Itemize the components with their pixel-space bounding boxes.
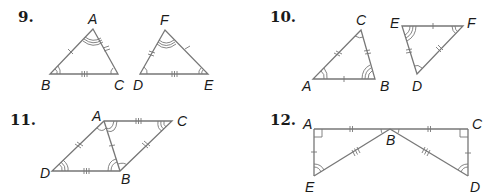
triangle-abc	[50, 29, 118, 74]
triangle-fde	[140, 30, 208, 74]
vertex-label-f: F	[160, 12, 170, 28]
vertex-label-a: A	[302, 116, 312, 132]
vertex-label-a: A	[87, 11, 97, 27]
angle-arcs	[55, 37, 203, 74]
vertex-label-d: D	[412, 78, 422, 94]
vertex-label-d: D	[40, 165, 50, 181]
vertex-label-d: D	[470, 179, 480, 195]
problem-11: 11.	[10, 108, 188, 187]
side-ticks	[68, 46, 190, 77]
vertex-label-d: D	[133, 77, 143, 93]
problem-number: 12.	[270, 111, 296, 129]
vertex-label-c: C	[472, 116, 483, 132]
problem-9: 9.	[18, 8, 214, 93]
problem-12: 12.	[270, 111, 483, 195]
vertex-label-b: B	[41, 77, 50, 93]
side-ticks	[334, 23, 443, 82]
vertex-label-e: E	[204, 77, 214, 93]
vertex-label-a: A	[91, 108, 101, 124]
segment-eb	[314, 129, 390, 176]
problem-number: 9.	[18, 8, 34, 26]
vertex-label-b: B	[121, 171, 130, 187]
vertex-label-e: E	[305, 179, 315, 195]
geometry-figures: 9.	[0, 0, 489, 195]
vertex-label-c: C	[356, 12, 367, 28]
vertex-label-e: E	[390, 15, 400, 31]
problem-10: 10.	[270, 8, 477, 94]
problem-number: 11.	[10, 111, 36, 129]
vertex-label-c: C	[177, 113, 188, 129]
vertex-label-f: F	[467, 15, 477, 31]
vertex-label-a: A	[301, 78, 311, 94]
vertex-label-c: C	[114, 77, 125, 93]
vertex-label-b: B	[386, 132, 395, 148]
vertex-label-b: B	[380, 78, 389, 94]
problem-number: 10.	[270, 8, 296, 26]
